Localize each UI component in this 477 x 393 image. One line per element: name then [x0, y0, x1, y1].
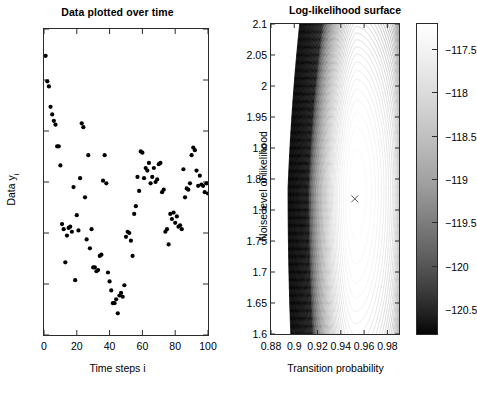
scatter-x-tick-label: 40: [104, 340, 116, 352]
scatter-point: [193, 148, 197, 152]
scatter-point: [45, 79, 49, 83]
scatter-point: [152, 166, 156, 170]
contour-y-tick-label: 1.8: [223, 204, 267, 216]
scatter-panel: Data plotted over time Data yi −6−4−2024…: [0, 0, 235, 393]
scatter-point: [103, 153, 107, 157]
scatter-point: [162, 188, 166, 192]
contour-y-tick-label: 1.65: [223, 297, 267, 309]
contour-line: [349, 147, 366, 239]
scatter-point: [99, 253, 103, 257]
scatter-point: [129, 239, 133, 243]
contour-title: Log-likelihood surface: [245, 4, 445, 16]
scatter-point: [190, 153, 194, 157]
contour-y-tick-label: 1.7: [223, 266, 267, 278]
scatter-point: [150, 175, 154, 179]
scatter-x-axis-label: Time steps i: [0, 362, 235, 374]
scatter-y-axis-label-text: Data y: [5, 175, 17, 205]
scatter-point: [183, 195, 187, 199]
contour-svg: [271, 24, 399, 334]
scatter-point: [178, 223, 182, 227]
colorbar-tick-label: −120.5: [445, 304, 477, 316]
scatter-point: [83, 195, 87, 199]
scatter-point: [53, 123, 57, 127]
colorbar-tick-mark: [432, 136, 438, 137]
scatter-point: [48, 105, 52, 109]
scatter-tick-marks: [44, 29, 208, 335]
contour-y-tick-label: 1.9: [223, 142, 267, 154]
contour-panel: Log-likelihood surface Noise level of li…: [235, 0, 470, 393]
scatter-point: [134, 204, 138, 208]
scatter-point: [63, 260, 67, 264]
scatter-point: [170, 217, 174, 221]
scatter-point: [158, 161, 162, 165]
scatter-point: [119, 291, 123, 295]
scatter-point: [167, 242, 171, 246]
scatter-point: [50, 112, 54, 116]
scatter-point: [147, 161, 151, 165]
colorbar-tick-label: −117.5: [445, 44, 477, 56]
scatter-point: [114, 297, 118, 301]
colorbar-tick-label: −120: [445, 261, 469, 273]
colorbar-tick-label: −118: [445, 87, 468, 99]
contour-x-axis-label: Transition probability: [253, 362, 418, 374]
scatter-point: [106, 270, 110, 274]
contour-y-tick-label: 1.85: [223, 173, 267, 185]
contour-x-tick-label: 0.9: [287, 340, 302, 352]
scatter-x-tick-label: 60: [137, 340, 149, 352]
scatter-point: [70, 230, 74, 234]
scatter-point: [81, 125, 85, 129]
scatter-point: [132, 212, 136, 216]
scatter-point: [93, 265, 97, 269]
scatter-point: [76, 228, 80, 232]
scatter-point: [108, 279, 112, 283]
scatter-x-tick-label: 100: [199, 340, 217, 352]
contour-x-tick-label: 0.94: [331, 340, 351, 352]
colorbar-tick-mark: [432, 309, 438, 310]
scatter-point: [130, 254, 134, 258]
scatter-point: [104, 181, 108, 185]
scatter-y-axis-label: Data yi: [5, 130, 20, 250]
scatter-svg: [44, 29, 208, 335]
contour-line: [346, 127, 372, 264]
contour-maximum-marker: [351, 195, 358, 202]
scatter-point: [121, 295, 125, 299]
contour-y-tick-label: 1.75: [223, 235, 267, 247]
contour-line-group: [288, 24, 399, 334]
scatter-plot-area: [43, 28, 209, 336]
scatter-x-tick-label: 0: [41, 340, 47, 352]
scatter-point: [175, 214, 179, 218]
contour-line: [338, 79, 384, 323]
colorbar-tick-label: −119.5: [445, 217, 477, 229]
scatter-point: [80, 121, 84, 125]
scatter-point: [60, 222, 64, 226]
scatter-point: [44, 54, 48, 58]
scatter-point: [127, 231, 131, 235]
contour-x-tick-label: 0.96: [354, 340, 374, 352]
scatter-x-tick-label: 80: [169, 340, 181, 352]
scatter-title: Data plotted over time: [0, 6, 235, 18]
scatter-point: [78, 176, 82, 180]
scatter-point: [47, 84, 51, 88]
scatter-point: [116, 311, 120, 315]
scatter-point: [89, 227, 93, 231]
scatter-point: [198, 174, 202, 178]
scatter-point: [57, 144, 61, 148]
scatter-point: [171, 211, 175, 215]
contour-x-tick-label: 0.98: [377, 340, 397, 352]
scatter-point: [88, 246, 92, 250]
contour-plot-area: [270, 23, 400, 335]
scatter-point: [73, 278, 77, 282]
scatter-point: [165, 227, 169, 231]
colorbar-tick-mark: [432, 266, 438, 267]
scatter-point: [58, 163, 62, 167]
scatter-point: [142, 176, 146, 180]
contour-line: [336, 70, 386, 334]
contour-y-tick-label: 2.05: [223, 49, 267, 61]
scatter-point: [181, 167, 185, 171]
scatter-point: [155, 177, 159, 181]
scatter-point: [86, 153, 90, 157]
contour-y-tick-label: 1.6: [223, 328, 267, 340]
scatter-point: [188, 181, 192, 185]
scatter-point: [140, 151, 144, 155]
